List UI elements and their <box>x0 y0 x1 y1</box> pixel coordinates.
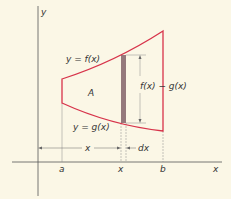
arrow-left-icon <box>38 147 42 150</box>
dx-arrow-icon <box>126 147 130 150</box>
height-label: f(x) − g(x) <box>140 81 187 91</box>
tick-label-a: a <box>59 164 65 174</box>
strip-dx <box>121 55 126 123</box>
distance-label: x <box>84 143 91 153</box>
lower-curve-label: y = g(x) <box>72 122 110 132</box>
tick-label-x: x <box>117 164 124 174</box>
arrow-down-icon <box>139 119 142 123</box>
diagram-canvas: y x y = f(x) y = g(x) A f(x) − g(x) a x … <box>0 0 231 199</box>
arrow-right-icon <box>117 147 121 150</box>
area-between-curves-diagram: y x y = f(x) y = g(x) A f(x) − g(x) a x … <box>0 0 231 199</box>
region-label: A <box>87 88 94 98</box>
x-axis-label: x <box>212 164 219 174</box>
upper-curve-label: y = f(x) <box>65 54 100 64</box>
tick-label-b: b <box>160 164 166 174</box>
dx-label: dx <box>138 143 150 153</box>
arrow-up-icon <box>139 55 142 59</box>
y-axis-label: y <box>40 7 47 17</box>
